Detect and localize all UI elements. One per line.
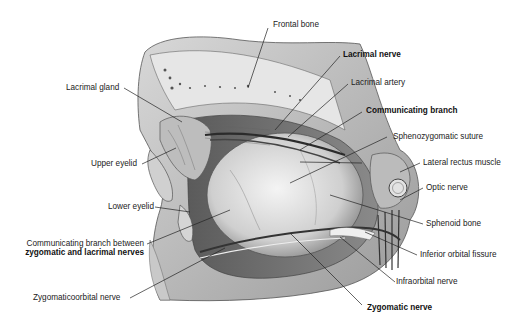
anatomy-illustration: Frontal bone Lacrimal nerve Lacrimal gla… — [0, 0, 521, 326]
label-zygomatic-nerve: Zygomatic nerve — [367, 303, 432, 313]
label-sphenoid-bone: Sphenoid bone — [426, 219, 481, 229]
label-lacrimal-artery: Lacrimal artery — [351, 78, 405, 88]
label-zygomatic-and-lacrimal-nerves: zygomatic and lacrimal nerves — [18, 248, 144, 258]
label-lacrimal-gland: Lacrimal gland — [66, 83, 119, 93]
label-lower-eyelid: Lower eyelid — [108, 202, 154, 212]
label-infraorbital-nerve: Infraorbital nerve — [396, 277, 457, 287]
label-upper-eyelid: Upper eyelid — [91, 159, 137, 169]
label-lateral-rectus-muscle: Lateral rectus muscle — [423, 158, 501, 168]
label-zygomaticoorbital-nerve: Zygomaticoorbital nerve — [33, 293, 120, 303]
label-frontal-bone: Frontal bone — [273, 20, 319, 30]
label-optic-nerve: Optic nerve — [426, 183, 468, 193]
optic-nerve-shape — [389, 179, 407, 197]
label-inferior-orbital-fissure: Inferior orbital fissure — [420, 250, 496, 260]
label-communicating-branch: Communicating branch — [366, 106, 457, 116]
label-lacrimal-nerve: Lacrimal nerve — [343, 50, 401, 60]
label-sphenozygomatic-suture: Sphenozygomatic suture — [393, 132, 483, 142]
